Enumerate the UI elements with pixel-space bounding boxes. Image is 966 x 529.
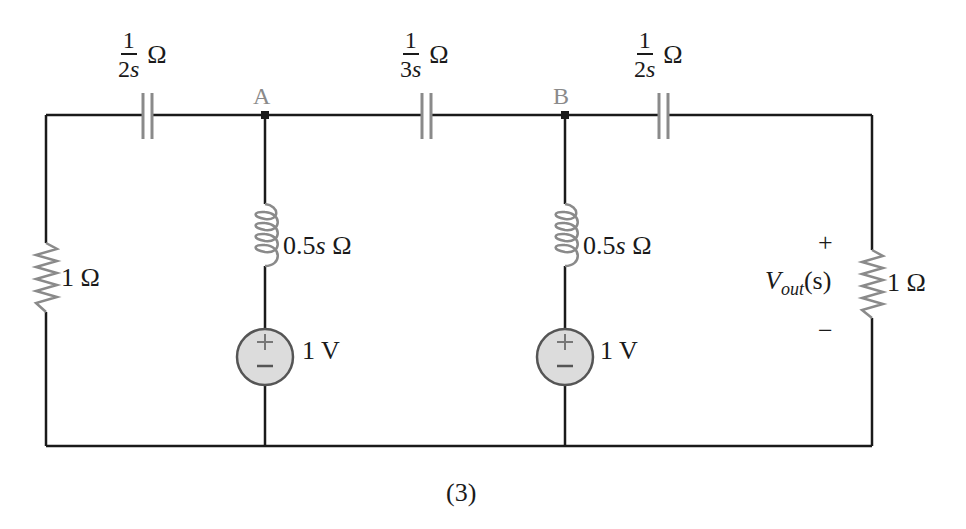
capacitor-mid-icon [422,93,431,139]
capacitor-right-numerator: 1 [637,28,653,55]
resistor-right-icon [862,250,883,318]
capacitor-mid-numerator: 1 [403,28,419,55]
resistor-left-label: 1 Ω [61,265,100,291]
source-a-label: 1 V [302,338,340,364]
source-b-label: 1 V [600,338,638,364]
voltage-source-b-icon [537,329,593,385]
capacitor-right-icon [659,93,668,139]
capacitor-left-den-coef: 2 [118,56,130,82]
resistor-right-label: 1 Ω [887,270,926,296]
vout-label: Vout(s) [765,268,831,294]
capacitor-right-label: 1 2s Ω [634,28,683,81]
figure-caption: (3) [446,480,476,506]
vout-plus-sign: + [818,230,833,256]
capacitor-right-den-coef: 2 [634,56,646,82]
capacitor-left-unit: Ω [147,40,166,70]
capacitor-mid-den-var: s [412,56,421,82]
vout-symbol: V [765,266,781,295]
capacitor-mid-label: 1 3s Ω [400,28,449,81]
resistor-left-icon [36,243,57,312]
inductor-b-var: s [616,231,626,260]
node-b-label: B [553,84,569,108]
inductor-a-unit: Ω [326,231,352,260]
vout-arg: (s) [804,266,831,295]
inductor-b-label: 0.5s Ω [583,233,651,259]
node-a-label: A [253,84,270,108]
inductor-a-coef: 0.5 [283,231,316,260]
inductor-b-unit: Ω [626,231,652,260]
capacitor-right-unit: Ω [663,40,682,70]
inductor-b-coef: 0.5 [583,231,616,260]
inductor-b-icon [556,204,578,266]
capacitor-left-label: 1 2s Ω [118,28,167,81]
capacitor-left-numerator: 1 [121,28,137,55]
node-b-dot [561,111,569,119]
capacitor-left-den-var: s [130,56,139,82]
voltage-source-a-icon [237,329,293,385]
node-a-dot [261,111,269,119]
capacitor-mid-den-coef: 3 [400,56,412,82]
inductor-a-icon [256,204,278,266]
vout-subscript: out [781,279,804,299]
inductor-a-var: s [316,231,326,260]
capacitor-mid-unit: Ω [429,40,448,70]
capacitor-left-icon [143,93,152,139]
vout-minus-sign: − [818,318,833,344]
inductor-a-label: 0.5s Ω [283,233,351,259]
capacitor-right-den-var: s [646,56,655,82]
